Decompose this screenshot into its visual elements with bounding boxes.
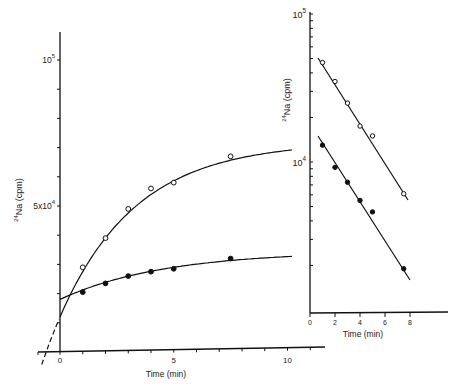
x-tick-label: 5 — [172, 356, 177, 365]
inset-filled-fit-line — [318, 136, 410, 280]
inset-y-tick-label: 105 — [292, 7, 306, 20]
inset-x-axis-label: Time (min) — [343, 329, 383, 339]
open-circle-point — [103, 236, 108, 241]
filled-fit-curve — [60, 256, 292, 299]
open-circle-point — [171, 180, 176, 185]
inset-filled-circle-point — [358, 198, 362, 202]
inset-y-axis-label: 24Na (cpm) — [281, 78, 292, 122]
inset-filled-circle-point — [320, 143, 324, 147]
inset-filled-circle-point — [333, 165, 337, 169]
inset-x-axis — [310, 312, 448, 313]
filled-circle-point — [228, 256, 233, 261]
inset-filled-circle-point — [345, 180, 349, 184]
x-tick-label: 0 — [58, 356, 63, 365]
filled-circle-point — [171, 266, 176, 271]
inset-filled-circle-point — [402, 267, 406, 271]
x-axis — [38, 347, 325, 352]
open-circle-point — [80, 265, 85, 270]
open-circle-point — [126, 207, 131, 212]
main-plot: 0510Time (min)1055x10424Na (cpm) — [13, 32, 325, 379]
y-tick-label: 5x104 — [33, 199, 55, 211]
filled-circle-point — [126, 274, 131, 279]
open-fit-curve — [60, 150, 292, 317]
y-axis-label: 24Na (cpm) — [13, 178, 24, 222]
inset-x-tick-label: 2 — [333, 319, 337, 326]
y-tick-label: 105 — [42, 53, 55, 65]
inset-open-circle-point — [402, 192, 406, 196]
open-circle-point — [228, 154, 233, 159]
open-fit-extrapolation — [42, 320, 59, 365]
filled-circle-point — [149, 269, 154, 274]
inset-open-circle-point — [320, 60, 324, 64]
inset-open-circle-point — [358, 124, 362, 128]
inset-x-tick-label: 4 — [358, 319, 362, 326]
inset-open-fit-line — [318, 58, 408, 200]
figure: 0510Time (min)1055x10424Na (cpm) 02468Ti… — [0, 0, 459, 386]
filled-circle-point — [103, 281, 108, 286]
inset-y-tick-label: 104 — [292, 155, 306, 168]
inset-x-tick-label: 6 — [383, 319, 387, 326]
open-circle-point — [149, 186, 154, 191]
inset-filled-circle-point — [370, 210, 374, 214]
inset-plot: 02468Time (min)10510424Na (cpm) — [281, 7, 448, 339]
inset-open-circle-point — [345, 101, 349, 105]
inset-x-tick-label: 0 — [308, 319, 312, 326]
inset-open-circle-point — [333, 79, 337, 83]
inset-x-tick-label: 8 — [408, 319, 412, 326]
x-axis-label: Time (min) — [146, 369, 186, 379]
filled-circle-point — [80, 290, 85, 295]
inset-open-circle-point — [370, 134, 374, 138]
x-tick-label: 10 — [283, 356, 292, 365]
